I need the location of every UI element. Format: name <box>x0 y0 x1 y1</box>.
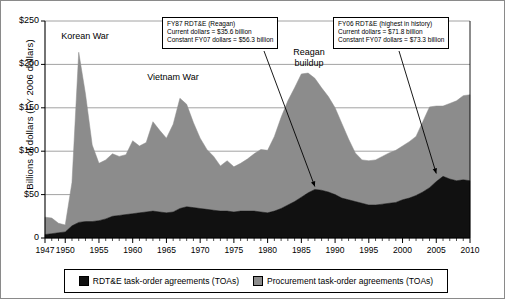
annotation-reagan-buildup-line2: buildup <box>279 58 339 69</box>
x-tick-label-2010: 2010 <box>453 245 487 255</box>
annotation-vietnam-war: Vietnam War <box>131 72 215 83</box>
x-tick-label-1960: 1960 <box>116 245 150 255</box>
callout-fy87-line3: Constant FY07 dollars = $56.3 billion <box>167 36 273 44</box>
callout-fy87-rdte: FY87 RDT&E (Reagan) Current dollars = $3… <box>162 17 278 49</box>
annotation-korean-war: Korean War <box>43 31 127 42</box>
callout-fy87-line1: FY87 RDT&E (Reagan) <box>167 20 273 28</box>
x-tick-label-2000: 2000 <box>386 245 420 255</box>
legend-label-procurement: Procurement task-order agreements (TOAs) <box>267 276 433 286</box>
y-tick-label-150: $150 <box>5 102 39 112</box>
x-tick-label-1985: 1985 <box>284 245 318 255</box>
legend-swatch-procurement-icon <box>253 276 263 286</box>
y-tick-label-250: $250 <box>5 15 39 25</box>
x-tick-label-1965: 1965 <box>149 245 183 255</box>
x-tick-label-1970: 1970 <box>183 245 217 255</box>
callout-fy06-line2: Current dollars = $71.8 billion <box>338 28 444 36</box>
legend-item-rdte: RDT&E task-order agreements (TOAs) <box>79 276 239 286</box>
annotation-reagan-buildup-line1: Reagan <box>279 47 339 58</box>
legend-label-rdte: RDT&E task-order agreements (TOAs) <box>93 276 239 286</box>
callout-fy06-rdte: FY06 RDT&E (highest in history) Current … <box>333 17 449 49</box>
callout-fy06-line1: FY06 RDT&E (highest in history) <box>338 20 444 28</box>
chart-legend: RDT&E task-order agreements (TOAs) Procu… <box>64 269 448 293</box>
legend-swatch-rdte-icon <box>79 276 89 286</box>
x-tick-label-1980: 1980 <box>251 245 285 255</box>
legend-item-procurement: Procurement task-order agreements (TOAs) <box>253 276 433 286</box>
x-tick-label-1955: 1955 <box>82 245 116 255</box>
annotation-reagan-buildup: Reagan buildup <box>279 47 339 69</box>
x-tick-label-1975: 1975 <box>217 245 251 255</box>
callout-fy87-line2: Current dollars = $35.6 billion <box>167 28 273 36</box>
x-tick-label-1995: 1995 <box>352 245 386 255</box>
y-tick-label-100: $100 <box>5 145 39 155</box>
y-tick-label-0: 0 <box>5 232 39 242</box>
chart-figure: Billions of dollars (FY 2006 dollars) $2… <box>0 0 505 299</box>
x-tick-label-2005: 2005 <box>419 245 453 255</box>
callout-fy06-line3: Constant FY07 dollars = $73.3 billion <box>338 36 444 44</box>
y-tick-label-200: $200 <box>5 58 39 68</box>
y-tick-label-50: $50 <box>5 189 39 199</box>
x-tick-label-1950: 1950 <box>48 245 82 255</box>
x-tick-label-1990: 1990 <box>318 245 352 255</box>
